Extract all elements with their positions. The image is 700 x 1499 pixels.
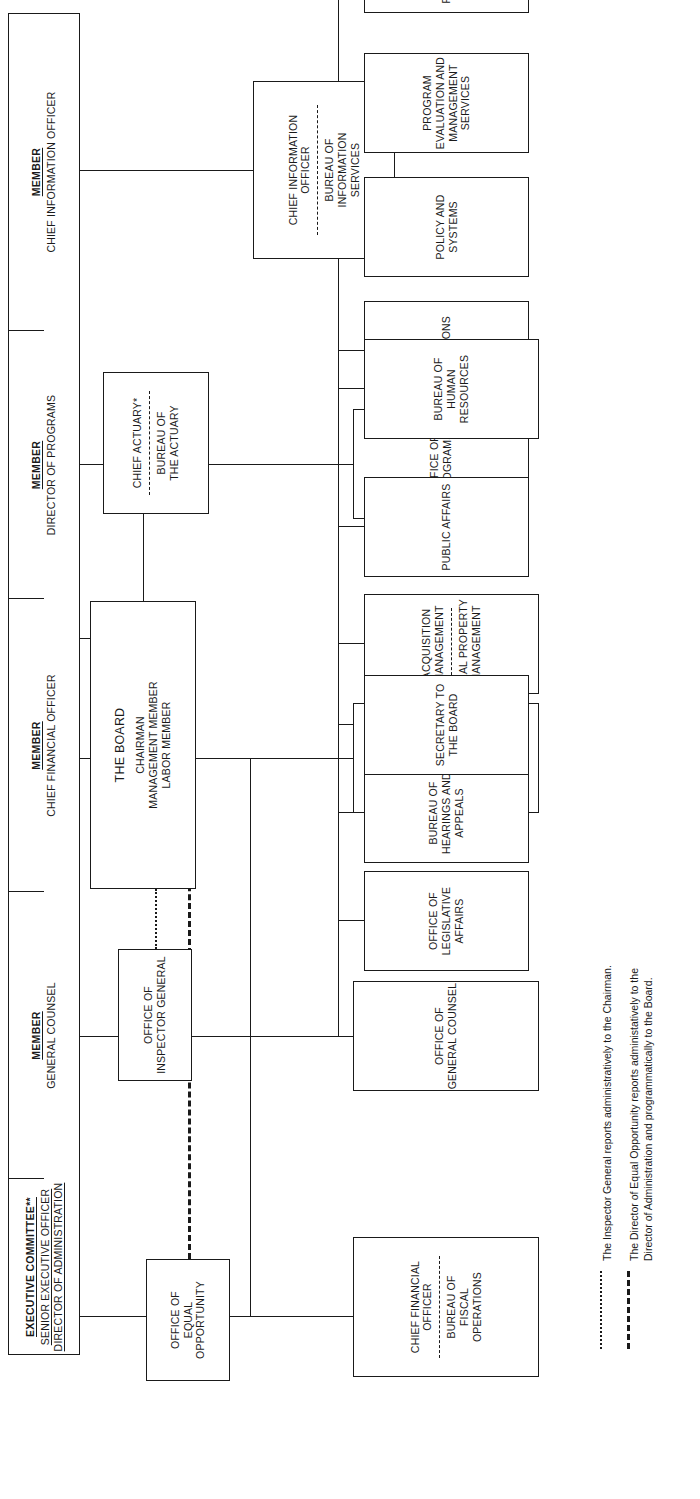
dotted-line-key-icon xyxy=(600,1271,608,1349)
executive-committee-line2: DIRECTOR OF ADMINISTRATION xyxy=(52,1183,65,1352)
legend-row-inspector-general: The Inspector General reports administra… xyxy=(600,879,614,1349)
spine-member-director-of-programs: MEMBER DIRECTOR OF PROGRAMS xyxy=(8,331,80,599)
child-stem xyxy=(338,388,364,389)
spine-member-chief-information-officer: MEMBER CHIEF INFORMATION OFFICER xyxy=(8,13,80,331)
chief-information-officer-title: CHIEF INFORMATION OFFICER xyxy=(287,115,313,226)
member-label: MEMBER xyxy=(30,441,42,489)
policy-and-systems-box: POLICY AND SYSTEMS xyxy=(364,177,529,277)
board-to-spine-connector xyxy=(80,638,90,639)
executive-committee-cell: EXECUTIVE COMMITTEE** SENIOR EXECUTIVE O… xyxy=(8,1179,80,1355)
bureau-of-the-actuary-title: BUREAU OF THE ACTUARY xyxy=(155,405,181,481)
legend-text: The Director of Equal Opportunity report… xyxy=(627,931,655,1261)
the-board-title: THE BOARD xyxy=(113,708,128,783)
bureau-of-hearings-and-appeals: BUREAU OF HEARINGS AND APPEALS xyxy=(364,763,529,863)
inspector-general-dotted-link xyxy=(155,889,157,949)
member-role: DIRECTOR OF PROGRAMS xyxy=(45,395,58,535)
dashed-divider xyxy=(317,105,318,235)
bureau-of-hearings-and-appeals-title: BUREAU OF HEARINGS AND APPEALS xyxy=(427,772,465,854)
bureau-of-information-services-title: BUREAU OF INFORMATION SERVICES xyxy=(323,133,361,208)
the-board-members: CHAIRMAN MANAGEMENT MEMBER LABOR MEMBER xyxy=(134,681,172,808)
member-label: MEMBER xyxy=(30,148,42,196)
office-of-inspector-general-box: OFFICE OF INSPECTOR GENERAL xyxy=(118,949,192,1081)
executive-committee-label: EXECUTIVE COMMITTEE** xyxy=(24,1197,36,1337)
dashed-divider xyxy=(451,608,452,681)
cio-box-connector xyxy=(126,170,253,171)
field-service-title: FIELD SERVICE xyxy=(440,0,453,4)
executive-committee-line1: SENIOR EXECUTIVE OFFICER xyxy=(39,1189,52,1346)
office-of-general-counsel-box: OFFICE OF GENERAL COUNSEL xyxy=(353,981,539,1091)
programs-child-stem xyxy=(338,350,364,351)
program-evaluation-and-management-services-box: PROGRAM EVALUATION AND MANAGEMENT SERVIC… xyxy=(364,53,529,153)
the-board-box: THE BOARD CHAIRMAN MANAGEMENT MEMBER LAB… xyxy=(90,601,196,889)
bus-line xyxy=(338,717,339,813)
spine-member-chief-financial-officer: MEMBER CHIEF FINANCIAL OFFICER xyxy=(8,599,80,892)
bureau-of-human-resources: BUREAU OF HUMAN RESOURCES xyxy=(364,339,539,439)
legend-row-equal-opportunity: The Director of Equal Opportunity report… xyxy=(627,879,655,1349)
chief-financial-officer-title: CHIEF FINANCIAL OFFICER xyxy=(409,1261,435,1353)
secretary-to-the-board: SECRETARY TO THE BOARD xyxy=(364,675,529,775)
legend: The Inspector General reports administra… xyxy=(600,879,669,1349)
member-label: MEMBER xyxy=(30,1011,42,1059)
spine-member-general-counsel: MEMBER GENERAL COUNSEL xyxy=(8,892,80,1179)
dashed-divider xyxy=(149,391,150,495)
field-service-box: FIELD SERVICE xyxy=(364,0,529,13)
acquisition-management-title: ACQUISITION MANAGEMENT xyxy=(420,605,446,682)
chief-financial-officer-box: CHIEF FINANCIAL OFFICER BUREAU OF FISCAL… xyxy=(353,1237,539,1377)
org-chart: EXECUTIVE COMMITTEE** SENIOR EXECUTIVE O… xyxy=(0,0,700,1499)
member-role: GENERAL COUNSEL xyxy=(45,982,58,1088)
spine-separator xyxy=(8,891,44,892)
program-evaluation-title: PROGRAM EVALUATION AND MANAGEMENT SERVIC… xyxy=(421,57,472,149)
secretary-to-the-board-title: SECRETARY TO THE BOARD xyxy=(434,684,460,767)
dashed-line-key-icon xyxy=(627,1271,636,1349)
office-of-legislative-affairs-box: OFFICE OF LEGISLATIVE AFFAIRS xyxy=(364,871,529,971)
bus-line xyxy=(338,381,339,477)
chief-actuary-box: CHIEF ACTUARY* BUREAU OF THE ACTUARY xyxy=(103,372,209,514)
lower-trunk-line xyxy=(250,759,251,1317)
office-of-equal-opportunity-box: OFFICE OF EQUAL OPPORTUNITY xyxy=(146,1259,230,1381)
spine-separator xyxy=(8,1178,44,1179)
actuary-to-board-connector xyxy=(143,514,144,601)
office-of-inspector-general-title: OFFICE OF INSPECTOR GENERAL xyxy=(142,956,168,1074)
dashed-divider xyxy=(439,1256,440,1358)
bureau-of-human-resources-title: BUREAU OF HUMAN RESOURCES xyxy=(432,355,470,423)
public-affairs-box: PUBLIC AFFAIRS xyxy=(364,477,529,577)
policy-and-systems-title: POLICY AND SYSTEMS xyxy=(434,195,460,260)
spine-separator xyxy=(8,330,44,331)
spine-separator xyxy=(8,598,44,599)
public-affairs-title: PUBLIC AFFAIRS xyxy=(440,484,453,571)
cio-drop-line xyxy=(80,170,126,171)
member-role: CHIEF INFORMATION OFFICER xyxy=(45,91,58,252)
administration-child-stem xyxy=(338,643,364,644)
administration-child-stem xyxy=(338,526,364,527)
cfo-box-connector xyxy=(250,1316,353,1317)
general-counsel-child-stem xyxy=(338,920,364,921)
legend-text: The Inspector General reports administra… xyxy=(600,965,614,1261)
office-of-equal-opportunity-title: OFFICE OF EQUAL OPPORTUNITY xyxy=(169,1281,207,1359)
general-counsel-bus-line xyxy=(338,813,339,1037)
office-of-legislative-affairs-title: OFFICE OF LEGISLATIVE AFFAIRS xyxy=(427,887,465,956)
chief-actuary-title: CHIEF ACTUARY* xyxy=(131,398,144,489)
office-of-general-counsel-title: OFFICE OF GENERAL COUNSEL xyxy=(433,983,459,1089)
member-role: CHIEF FINANCIAL OFFICER xyxy=(45,674,58,816)
member-label: MEMBER xyxy=(30,721,42,769)
org-chart-stage: EXECUTIVE COMMITTEE** SENIOR EXECUTIVE O… xyxy=(0,0,700,1499)
bureau-of-fiscal-operations-title: BUREAU OF FISCAL OPERATIONS xyxy=(445,1272,483,1342)
